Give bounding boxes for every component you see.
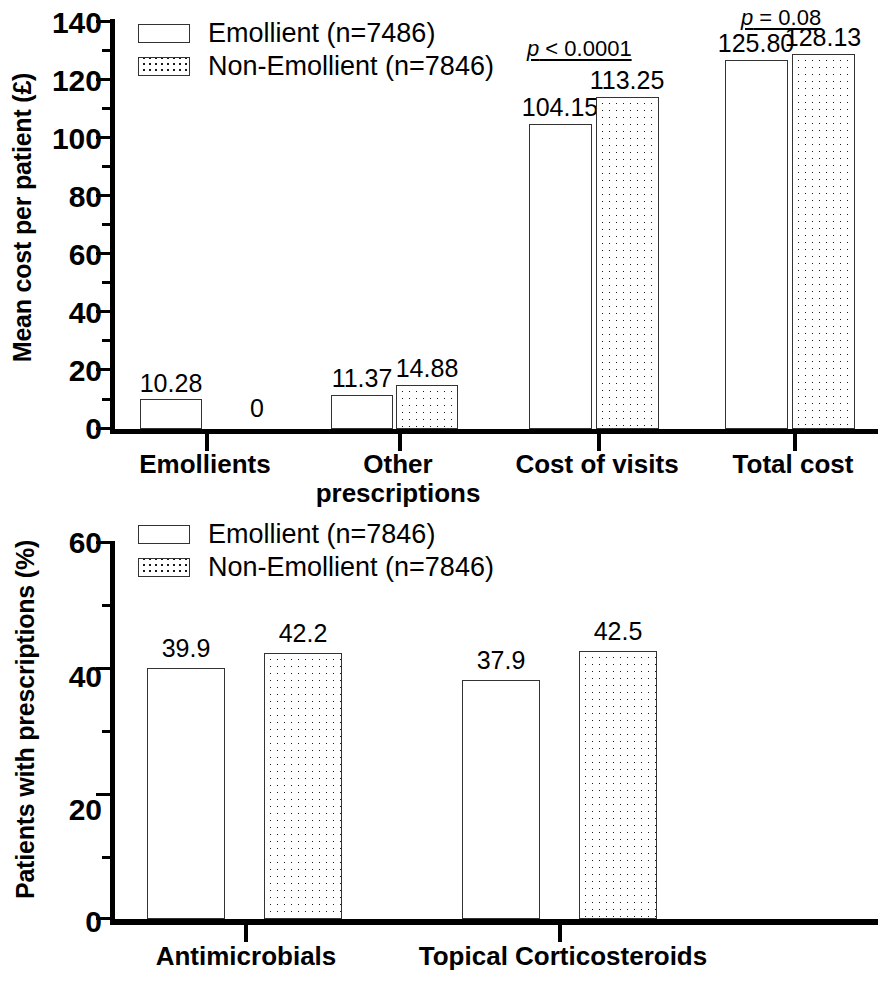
y-major-tick (96, 793, 114, 796)
chart-panel-mean-cost: Mean cost per patient (£) 140 120 100 80… (0, 0, 881, 505)
bar-total-cost-emollient (725, 60, 788, 429)
y-major-tick (96, 541, 114, 544)
legend-label-non-emollient: Non-Emollient (n=7846) (208, 552, 494, 583)
bar-emollients-emollient (140, 399, 202, 429)
pvalue-symbol: p (527, 36, 539, 61)
bar-value-emollients-non-emollient: 0 (197, 394, 317, 423)
legend-swatch-open (138, 24, 190, 43)
y-major-tick (96, 194, 114, 197)
y-minor-tick (102, 281, 114, 284)
y-tick-label-60: 60 (22, 238, 102, 272)
bar-value-antimicrobials-emollient: 39.9 (126, 634, 246, 663)
legend-swatch-dotted (138, 558, 190, 577)
chart-panel-patients-with-prescriptions: Patients with prescriptions (%) 60 40 20… (0, 505, 881, 988)
y-minor-tick (102, 856, 114, 859)
x-category-label-other-prescriptions: Other prescriptions (298, 450, 498, 508)
y-minor-tick (102, 49, 114, 52)
legend-item-non-emollient: Non-Emollient (n=7846) (138, 51, 494, 82)
y-tick-label-20: 20 (22, 793, 102, 827)
bar-other-prescriptions-emollient (331, 395, 393, 429)
x-category-label-emollients: Emollients (105, 450, 305, 479)
y-tick-label-60: 60 (22, 526, 102, 560)
x-category-label-cost-of-visits: Cost of visits (492, 450, 702, 479)
bar-other-prescriptions-non-emollient (396, 385, 458, 429)
legend-label-non-emollient: Non-Emollient (n=7846) (208, 51, 494, 82)
y-tick-label-40: 40 (22, 296, 102, 330)
x-category-label-topical-corticosteroids: Topical Corticosteroids (413, 942, 713, 971)
y-tick-label-120: 120 (22, 64, 102, 98)
x-category-label-antimicrobials: Antimicrobials (141, 942, 351, 971)
y-major-tick (96, 20, 114, 23)
pvalue-annotation-cost-of-visits: p < 0.0001 (527, 36, 632, 62)
y-minor-tick (102, 604, 114, 607)
bar-cost-of-visits-emollient (529, 124, 592, 429)
y-minor-tick (102, 107, 114, 110)
figure-two-panel-bar-charts: Mean cost per patient (£) 140 120 100 80… (0, 0, 881, 988)
x-axis-spine-bottom (110, 919, 878, 925)
legend-bottom: Emollient (n=7846) Non-Emollient (n=7846… (138, 519, 494, 585)
y-tick-label-40: 40 (22, 660, 102, 694)
y-minor-tick (102, 339, 114, 342)
y-tick-label-100: 100 (22, 122, 102, 156)
legend-item-emollient: Emollient (n=7846) (138, 519, 494, 550)
y-axis-title-bottom: Patients with prescriptions (%) (11, 505, 40, 935)
bar-value-cost-of-visits-non-emollient: 113.25 (567, 66, 687, 95)
y-major-tick (96, 252, 114, 255)
x-category-tick (244, 925, 248, 942)
y-major-tick (96, 427, 114, 430)
bar-topical-corticosteroids-non-emollient (579, 651, 657, 919)
legend-label-emollient: Emollient (n=7846) (208, 519, 435, 550)
y-major-tick (96, 136, 114, 139)
y-major-tick (96, 78, 114, 81)
bar-total-cost-non-emollient (792, 54, 855, 429)
y-tick-label-80: 80 (22, 180, 102, 214)
bar-topical-corticosteroids-emollient (462, 680, 540, 919)
bar-antimicrobials-emollient (147, 668, 225, 919)
bar-value-other-prescriptions-non-emollient: 14.88 (367, 354, 487, 383)
y-minor-tick (102, 223, 114, 226)
bar-antimicrobials-non-emollient (264, 653, 342, 919)
legend-swatch-dotted (138, 57, 190, 76)
bar-value-topical-corticosteroids-emollient: 37.9 (441, 646, 561, 675)
legend-swatch-open (138, 525, 190, 544)
y-major-tick (96, 667, 114, 670)
bar-value-total-cost-non-emollient: 128.13 (763, 23, 881, 52)
pvalue-text: < 0.0001 (539, 36, 631, 61)
x-axis-spine-top (110, 429, 878, 434)
y-major-tick (96, 310, 114, 313)
legend-item-non-emollient: Non-Emollient (n=7846) (138, 552, 494, 583)
x-category-label-total-cost: Total cost (693, 450, 881, 479)
y-major-tick (96, 917, 114, 920)
bar-value-topical-corticosteroids-non-emollient: 42.5 (558, 617, 678, 646)
pvalue-symbol: p (741, 5, 753, 30)
x-category-tick (558, 925, 562, 942)
y-minor-tick (102, 398, 114, 401)
y-tick-label-140: 140 (22, 6, 102, 40)
y-tick-label-20: 20 (22, 354, 102, 388)
y-tick-label-0: 0 (22, 412, 102, 446)
bar-cost-of-visits-non-emollient (596, 97, 659, 429)
y-minor-tick (102, 730, 114, 733)
bar-value-antimicrobials-non-emollient: 42.2 (243, 619, 363, 648)
y-minor-tick (102, 165, 114, 168)
y-tick-label-0: 0 (22, 905, 102, 939)
legend-label-emollient: Emollient (n=7486) (208, 18, 435, 49)
legend-item-emollient: Emollient (n=7486) (138, 18, 494, 49)
legend-top: Emollient (n=7486) Non-Emollient (n=7846… (138, 18, 494, 84)
